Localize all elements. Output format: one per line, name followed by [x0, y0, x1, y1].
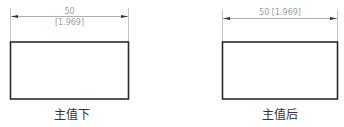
- figure-below: 50 [1.969]: [11, 7, 129, 99]
- part-outline: [223, 42, 338, 99]
- arrowhead-right-icon: [330, 17, 337, 20]
- caption-after: 主值后: [240, 105, 320, 122]
- caption-below: 主值下: [32, 105, 112, 122]
- arrowhead-left-icon: [11, 15, 18, 18]
- dimension-primary: 50 [1.969]: [259, 8, 301, 17]
- part-outline: [11, 42, 129, 99]
- arrowhead-right-icon: [121, 15, 128, 18]
- dimension-primary: 50: [64, 7, 74, 16]
- dimension-alternate: [1.969]: [55, 18, 84, 27]
- figure-after: 50 [1.969]: [223, 8, 338, 99]
- arrowhead-left-icon: [223, 17, 230, 20]
